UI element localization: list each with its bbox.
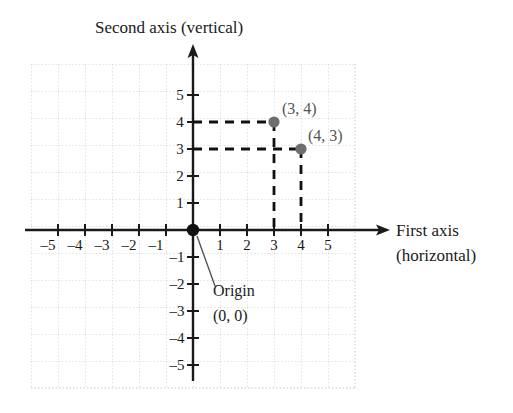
x-tick-label-1: 1 <box>216 237 224 254</box>
x-tick-label--3: –3 <box>95 237 110 254</box>
y-tick-label-5: 5 <box>176 87 184 104</box>
point-label-3-4: (3, 4) <box>282 100 317 118</box>
vertical-axis-title: Second axis (vertical) <box>95 18 243 37</box>
x-tick-label-3: 3 <box>270 237 278 254</box>
y-tick-label--2: –2 <box>170 276 185 293</box>
y-tick-label-1: 1 <box>176 195 184 212</box>
origin-caption-line1: Origin <box>213 282 255 300</box>
horizontal-axis-title-line2: (horizontal) <box>396 246 476 265</box>
y-tick-label-2: 2 <box>176 168 184 185</box>
point-label-4-3: (4, 3) <box>308 127 343 145</box>
x-tick-label--1: –1 <box>149 237 164 254</box>
x-tick-label-5: 5 <box>324 237 332 254</box>
coordinate-plane-figure: Second axis (vertical) First axis (horiz… <box>0 0 513 413</box>
horizontal-axis-title-line1: First axis <box>396 221 459 240</box>
x-tick-label-4: 4 <box>297 237 305 254</box>
x-tick-label--2: –2 <box>122 237 137 254</box>
x-tick-label--4: –4 <box>68 237 83 254</box>
data-point-4-3[interactable] <box>295 143 306 154</box>
y-tick-label--5: –5 <box>170 357 185 374</box>
y-tick-label-3: 3 <box>176 141 184 158</box>
x-tick-label-2: 2 <box>243 237 251 254</box>
origin-dot[interactable] <box>187 224 199 236</box>
data-point-3-4[interactable] <box>268 116 279 127</box>
y-tick-label--4: –4 <box>170 330 185 347</box>
y-tick-label-4: 4 <box>176 114 184 131</box>
coordinate-plane-canvas <box>0 0 513 413</box>
origin-caption-line2: (0, 0) <box>213 307 248 325</box>
y-tick-label--3: –3 <box>170 303 185 320</box>
y-tick-label--1: –1 <box>170 249 185 266</box>
x-tick-label--5: –5 <box>41 237 56 254</box>
